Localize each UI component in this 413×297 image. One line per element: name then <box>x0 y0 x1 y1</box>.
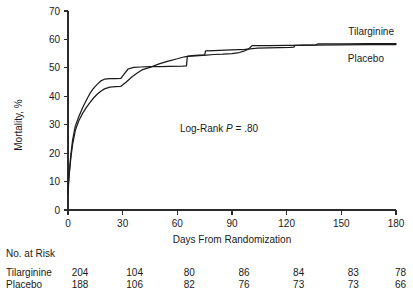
risk-cell: 78 <box>395 267 407 278</box>
risk-row-label: Placebo <box>6 279 43 290</box>
y-tick-label: 20 <box>49 148 61 159</box>
risk-cell: 188 <box>72 279 89 290</box>
curve-label-tilarginine: Tilarginine <box>348 26 394 37</box>
y-tick-label: 40 <box>49 91 61 102</box>
log-rank-prefix: Log-Rank <box>180 123 226 134</box>
y-tick-label: 60 <box>49 34 61 45</box>
risk-cell: 204 <box>72 267 89 278</box>
kaplan-meier-figure: 010203040506070 0306090120150180 Mortali… <box>0 0 413 297</box>
y-tick-label: 10 <box>49 176 61 187</box>
x-tick-label: 60 <box>172 218 184 229</box>
x-tick-label: 150 <box>333 218 350 229</box>
risk-cell: 73 <box>348 279 360 290</box>
risk-cell: 66 <box>395 279 407 290</box>
x-tick-label: 90 <box>226 218 238 229</box>
risk-row-label: Tilarginine <box>6 267 52 278</box>
y-tick-label: 70 <box>49 6 61 17</box>
x-tick-label: 120 <box>278 218 295 229</box>
risk-cell: 84 <box>293 267 305 278</box>
curve-label-placebo: Placebo <box>348 53 385 64</box>
risk-cell: 76 <box>238 279 250 290</box>
log-rank-value: = .80 <box>233 123 259 134</box>
mortality-survival-chart: 010203040506070 0306090120150180 Mortali… <box>0 0 413 297</box>
y-tick-label: 30 <box>49 119 61 130</box>
log-rank-annotation: Log-Rank P = .80 <box>180 123 259 134</box>
y-tick-label: 0 <box>54 205 60 216</box>
y-tick-label: 50 <box>49 62 61 73</box>
risk-cell: 106 <box>126 279 143 290</box>
risk-cell: 104 <box>126 267 143 278</box>
x-axis-title: Days From Randomization <box>173 234 291 245</box>
risk-cell: 82 <box>184 279 196 290</box>
risk-cell: 83 <box>348 267 360 278</box>
risk-table-header: No. at Risk <box>6 248 56 259</box>
risk-cell: 80 <box>184 267 196 278</box>
risk-cell: 73 <box>293 279 305 290</box>
risk-cell: 86 <box>238 267 250 278</box>
y-axis-title: Mortality, % <box>13 99 24 151</box>
x-tick-label: 0 <box>65 218 71 229</box>
x-tick-label: 30 <box>117 218 129 229</box>
x-tick-label: 180 <box>388 218 405 229</box>
